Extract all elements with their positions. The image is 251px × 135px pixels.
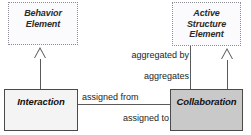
node-interaction[interactable]: Interaction	[4, 89, 78, 131]
node-interaction-label: Interaction	[5, 96, 77, 107]
generalization-line-collaboration-active-structure[interactable]	[227, 60, 228, 89]
edge-label-aggregates: aggregates	[123, 71, 190, 82]
edge-label-aggregated-by: aggregated by	[117, 50, 190, 61]
node-active-structure-element-label-line2: Structure	[187, 19, 226, 29]
uml-metamodel-diagram: Behavior Element Active Structure Elemen…	[0, 0, 251, 135]
edge-label-assigned-from: assigned from	[81, 92, 140, 103]
edge-label-assigned-to: assigned to	[100, 113, 170, 124]
node-collaboration[interactable]: Collaboration	[170, 89, 243, 131]
triangle-fill-icon	[35, 49, 45, 58]
generalization-line-interaction-behavior[interactable]	[40, 59, 41, 89]
association-line-interaction-collaboration[interactable]	[78, 104, 170, 105]
node-behavior-element-label: Behavior Element	[9, 8, 77, 29]
node-active-structure-element[interactable]: Active Structure Element	[172, 2, 241, 46]
node-behavior-element[interactable]: Behavior Element	[8, 2, 78, 45]
aggregation-line-collaboration-active-structure[interactable]	[190, 46, 191, 89]
triangle-fill-icon	[222, 50, 232, 59]
node-behavior-element-label-line1: Behavior	[24, 8, 62, 18]
node-active-structure-element-label: Active Structure Element	[173, 8, 240, 40]
node-behavior-element-label-line2: Element	[26, 19, 60, 29]
node-active-structure-element-label-line1: Active	[193, 8, 219, 18]
node-active-structure-element-label-line3: Element	[189, 29, 223, 39]
node-collaboration-label: Collaboration	[171, 96, 242, 107]
